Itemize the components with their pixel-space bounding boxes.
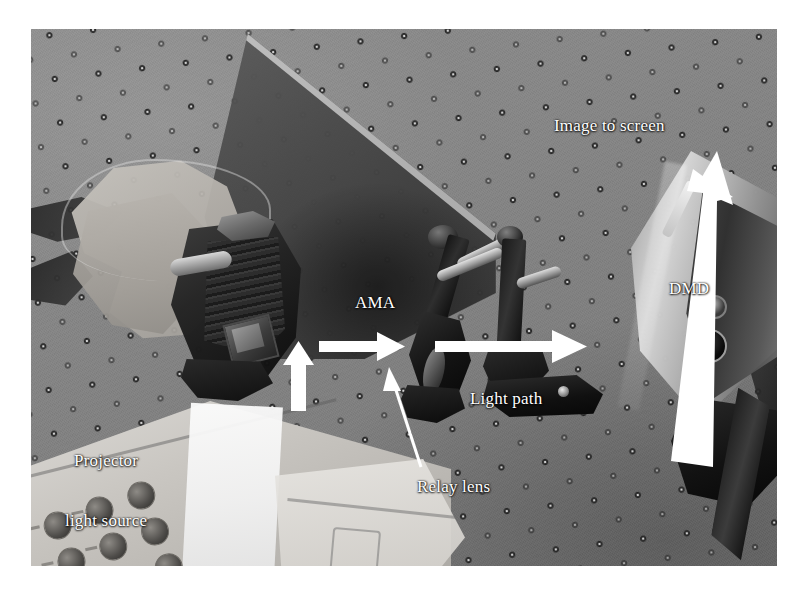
figure-root: Image to screen DMD AMA Light path Relay…: [0, 0, 807, 593]
projector-white-panel: [181, 403, 283, 566]
label-projector-line-2: light source: [65, 511, 147, 531]
label-image-to-screen: Image to screen: [554, 116, 665, 136]
label-ama: AMA: [355, 293, 395, 313]
projector-badge: [329, 527, 381, 566]
label-projector-light-source: Projector light source: [65, 411, 147, 566]
photograph: Image to screen DMD AMA Light path Relay…: [31, 29, 777, 566]
label-light-path: Light path: [470, 389, 542, 409]
keypad-button: [152, 551, 185, 566]
label-projector-line-1: Projector: [65, 451, 147, 471]
label-dmd: DMD: [669, 279, 709, 299]
dmd-large-port: [693, 329, 727, 363]
label-relay-lens: Relay lens: [417, 477, 490, 497]
optical-post-screw: [558, 386, 569, 397]
